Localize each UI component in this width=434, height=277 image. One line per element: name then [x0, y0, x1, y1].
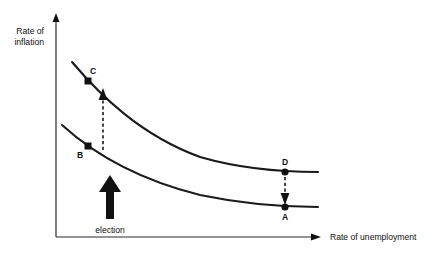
- point-label-b: B: [77, 150, 83, 160]
- text-labels-group: Rate of inflation Rate of unemployment e…: [14, 26, 417, 242]
- point-label-d: D: [282, 157, 288, 167]
- phillips-curve-figure: C B D A Rate of inflation Rate of unempl…: [0, 0, 434, 277]
- election-label: election: [95, 225, 125, 235]
- upper-phillips-curve: [72, 62, 318, 172]
- b-to-c-arrowhead: [99, 88, 108, 100]
- marker-point-b: [85, 143, 92, 150]
- lower-phillips-curve: [62, 125, 318, 207]
- x-axis-label: Rate of unemployment: [330, 232, 417, 242]
- point-label-a: A: [282, 212, 288, 222]
- transition-arrows-group: [99, 88, 290, 205]
- election-arrow-group: [99, 175, 121, 219]
- y-axis-arrowhead: [53, 13, 60, 22]
- y-axis-label-line1: Rate of: [16, 26, 44, 36]
- d-to-a-arrowhead: [281, 193, 290, 205]
- marker-point-d: [281, 168, 288, 175]
- marker-point-c: [85, 78, 92, 85]
- point-label-c: C: [90, 66, 96, 76]
- election-arrow-shaft: [106, 188, 114, 219]
- curves-group: [62, 62, 318, 207]
- y-axis-label-line2: inflation: [14, 37, 44, 47]
- election-arrow-head: [99, 175, 121, 192]
- marker-point-a: [281, 203, 288, 210]
- diagram-canvas: C B D A Rate of inflation Rate of unempl…: [0, 0, 434, 277]
- x-axis-arrowhead: [311, 234, 321, 241]
